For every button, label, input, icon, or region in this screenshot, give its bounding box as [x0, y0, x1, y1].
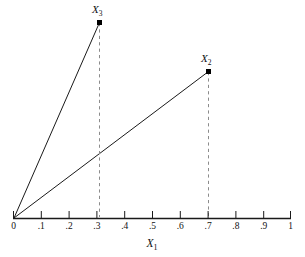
- x-axis-title: X1: [122, 237, 182, 254]
- data-point-marker-x2: [206, 69, 211, 74]
- data-point-marker-x3: [97, 20, 102, 25]
- vector-line-x2: [14, 72, 209, 219]
- x-tick-label-0.9: .9: [253, 221, 275, 231]
- x-tick-label-0.4: .4: [114, 221, 136, 231]
- x-tick-label-0: 0: [3, 221, 25, 231]
- x-tick-label-0.3: .3: [86, 221, 108, 231]
- vector-line-x3: [14, 23, 100, 219]
- x-tick-label-0.7: .7: [197, 221, 219, 231]
- x-axis-title-subscript: 1: [154, 243, 158, 252]
- data-point-label-x2: X2: [201, 53, 211, 67]
- x-axis-ticks: [14, 211, 291, 218]
- vector-diagram-figure: · ··· ··· ······ ······ ········ ···· ··…: [0, 0, 305, 257]
- x-tick-label-0.8: .8: [225, 221, 247, 231]
- x-axis-title-text: X: [146, 237, 153, 249]
- x-tick-label-0.6: .6: [169, 221, 191, 231]
- x-tick-label-0.5: .5: [142, 221, 164, 231]
- x-tick-label-0.2: .2: [58, 221, 80, 231]
- x-tick-label-0.1: .1: [30, 221, 52, 231]
- x-tick-label-1: 1: [280, 221, 302, 231]
- data-point-label-x3: X3: [92, 4, 102, 18]
- plot-canvas: [0, 0, 305, 257]
- data-point-label-x3-subscript: 3: [99, 9, 103, 18]
- data-point-label-x2-text: X: [201, 52, 208, 64]
- data-point-label-x3-text: X: [92, 3, 99, 15]
- data-point-label-x2-subscript: 2: [208, 58, 212, 67]
